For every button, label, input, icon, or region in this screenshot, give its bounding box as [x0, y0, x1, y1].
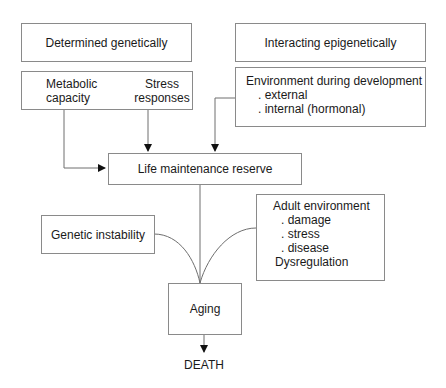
- adult-env-curve: [200, 228, 256, 283]
- interacting-epigenetically-box: Interacting epigenetically: [235, 23, 426, 62]
- aging-label: Aging: [190, 302, 221, 316]
- stress-line1: Stress: [132, 77, 192, 91]
- metabolic-to-reserve-arrow: [64, 109, 105, 168]
- environment-development-box: Environment during development . externa…: [235, 67, 426, 127]
- metabolic-stress-box: Metabolic capacity Stress responses: [21, 71, 193, 110]
- metabolic-line1: Metabolic: [46, 77, 97, 91]
- genetic-instability-label: Genetic instability: [51, 228, 145, 242]
- life-maintenance-reserve-label: Life maintenance reserve: [138, 162, 273, 176]
- aging-box: Aging: [168, 283, 242, 335]
- stress-line2: responses: [132, 91, 192, 105]
- adult-env-title: Adult environment: [273, 199, 370, 213]
- genetic-instability-curve: [154, 234, 200, 283]
- adult-environment-box: Adult environment . damage . stress . di…: [256, 194, 385, 281]
- determined-genetically-box: Determined genetically: [21, 23, 192, 62]
- adult-env-footer: Dysregulation: [273, 255, 370, 269]
- environment-to-reserve-arrow: [215, 98, 235, 151]
- environment-dev-item-external: . external: [246, 88, 422, 102]
- adult-env-item-stress: . stress: [273, 227, 370, 241]
- environment-dev-item-internal: . internal (hormonal): [246, 102, 422, 116]
- life-maintenance-reserve-box: Life maintenance reserve: [108, 153, 302, 185]
- genetic-instability-box: Genetic instability: [41, 215, 155, 254]
- determined-genetically-label: Determined genetically: [45, 36, 167, 50]
- death-label: DEATH: [174, 358, 234, 372]
- metabolic-line2: capacity: [46, 91, 97, 105]
- adult-env-item-disease: . disease: [273, 241, 370, 255]
- adult-env-item-damage: . damage: [273, 213, 370, 227]
- interacting-epigenetically-label: Interacting epigenetically: [264, 36, 396, 50]
- environment-dev-title: Environment during development: [246, 74, 422, 88]
